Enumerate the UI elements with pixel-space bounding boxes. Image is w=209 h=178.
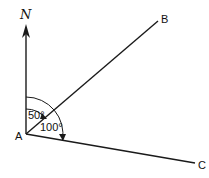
line-ac — [26, 134, 195, 163]
angle-label-100: 100° — [40, 121, 63, 133]
north-label: N — [19, 7, 32, 22]
line-ab — [26, 21, 158, 134]
bearing-diagram: N 50° 100° A B C — [0, 0, 209, 178]
angle-label-50: 50° — [28, 109, 45, 121]
point-label-a: A — [15, 130, 23, 142]
point-label-b: B — [161, 13, 168, 25]
point-label-c: C — [198, 159, 206, 171]
